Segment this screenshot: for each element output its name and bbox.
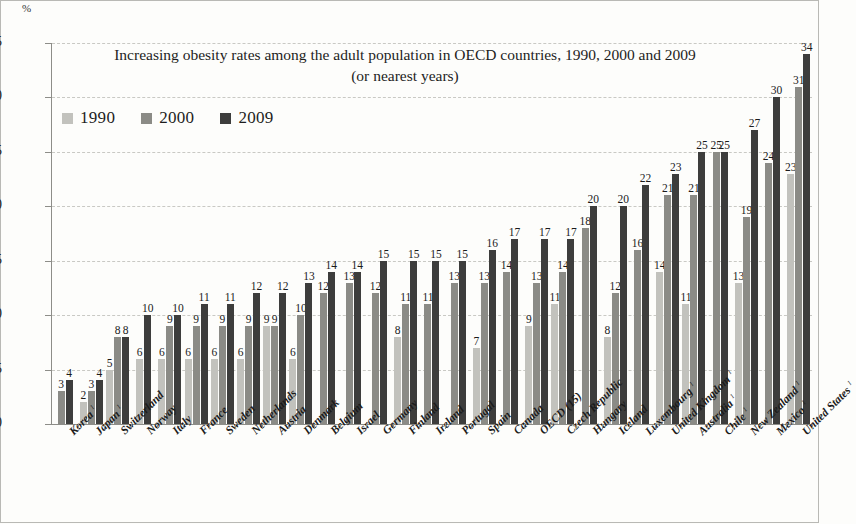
bar-value-label: 27 bbox=[749, 117, 761, 129]
bar-value-label: 9 bbox=[272, 313, 278, 325]
bar-2000: 19 bbox=[743, 217, 750, 424]
bar-2009: 4 bbox=[66, 380, 73, 424]
bar-value-label: 6 bbox=[137, 346, 143, 358]
x-tick-mark bbox=[78, 424, 79, 429]
bar-value-label: 8 bbox=[395, 324, 401, 336]
bar-value-label: 12 bbox=[251, 280, 263, 292]
bar-value-label: 17 bbox=[509, 226, 521, 238]
bar-value-label: 13 bbox=[303, 270, 315, 282]
bar-group: 6910 bbox=[157, 43, 183, 424]
y-tick-label: 5 bbox=[0, 361, 2, 377]
bar-group: 1820 bbox=[576, 43, 602, 424]
bar-2009: 22 bbox=[642, 185, 649, 424]
bar-value-label: 5 bbox=[107, 357, 113, 369]
bar-group: 233134 bbox=[786, 43, 812, 424]
x-tick-mark bbox=[157, 424, 158, 429]
x-tick-mark bbox=[235, 424, 236, 429]
bar-value-label: 9 bbox=[246, 313, 252, 325]
x-tick-mark bbox=[262, 424, 263, 429]
x-tick-mark bbox=[707, 424, 708, 429]
bar-2009: 11 bbox=[227, 304, 234, 424]
bar-value-label: 11 bbox=[199, 291, 210, 303]
x-tick-mark bbox=[655, 424, 656, 429]
bar-value-label: 10 bbox=[172, 302, 184, 314]
bar-group: 1115 bbox=[419, 43, 445, 424]
bar-value-label: 16 bbox=[487, 237, 499, 249]
bar-group: 91317 bbox=[524, 43, 550, 424]
bar-2009: 30 bbox=[773, 97, 780, 424]
bar-value-label: 9 bbox=[264, 313, 270, 325]
bar-value-label: 8 bbox=[604, 324, 610, 336]
x-tick-mark bbox=[681, 424, 682, 429]
bar-group: 81220 bbox=[602, 43, 628, 424]
bar-group: 111417 bbox=[550, 43, 576, 424]
bar-2009: 25 bbox=[698, 152, 705, 424]
bar-2009: 12 bbox=[253, 293, 260, 424]
bar-2009: 20 bbox=[620, 206, 627, 424]
y-tick-label: 0 bbox=[0, 415, 2, 431]
bar-group: 610 bbox=[131, 43, 157, 424]
bar-value-label: 20 bbox=[587, 193, 599, 205]
bar-value-label: 25 bbox=[718, 139, 730, 151]
bar-group: 2430 bbox=[759, 43, 785, 424]
bar-2009: 23 bbox=[672, 174, 679, 424]
x-tick-mark bbox=[366, 424, 367, 429]
bar-group: 1214 bbox=[314, 43, 340, 424]
x-tick-mark bbox=[288, 424, 289, 429]
x-tick-mark bbox=[550, 424, 551, 429]
bar-value-label: 6 bbox=[238, 346, 244, 358]
x-tick-mark bbox=[498, 424, 499, 429]
bar-1990: 14 bbox=[656, 272, 663, 424]
bar-group: 1215 bbox=[366, 43, 392, 424]
bar-group: 234 bbox=[78, 43, 104, 424]
bar-group: 1314 bbox=[340, 43, 366, 424]
y-tick-label: 15 bbox=[0, 252, 2, 268]
bar-value-label: 6 bbox=[159, 346, 165, 358]
bar-groups: 3423458861069106911691169129912610131214… bbox=[52, 43, 812, 424]
bar-value-label: 6 bbox=[290, 346, 296, 358]
bar-value-label: 2 bbox=[80, 389, 86, 401]
x-tick-mark bbox=[314, 424, 315, 429]
bar-2000: 31 bbox=[795, 87, 802, 424]
bar-group: 6912 bbox=[235, 43, 261, 424]
bar-value-label: 14 bbox=[352, 259, 364, 271]
bar-value-label: 6 bbox=[211, 346, 217, 358]
y-tick-label: 10 bbox=[0, 306, 2, 322]
bar-group: 9912 bbox=[262, 43, 288, 424]
bar-2009: 20 bbox=[590, 206, 597, 424]
bar-value-label: 4 bbox=[66, 367, 72, 379]
bar-2009: 17 bbox=[541, 239, 548, 424]
bar-value-label: 8 bbox=[123, 324, 129, 336]
x-tick-mark bbox=[760, 424, 761, 429]
bar-group: 6911 bbox=[209, 43, 235, 424]
y-tick-label: 20 bbox=[0, 197, 2, 213]
x-axis-labels: Korea 1Japan 1SwitzerlandNorwayItalyFran… bbox=[52, 428, 812, 524]
bar-value-label: 3 bbox=[88, 378, 94, 390]
x-tick-mark bbox=[104, 424, 105, 429]
y-tick-label: 25 bbox=[0, 143, 2, 159]
bar-value-label: 15 bbox=[456, 248, 468, 260]
bar-2009: 15 bbox=[432, 261, 439, 424]
bar-2009: 17 bbox=[511, 239, 518, 424]
bar-2009: 27 bbox=[751, 130, 758, 424]
bar-value-label: 7 bbox=[473, 335, 479, 347]
bar-value-label: 15 bbox=[378, 248, 390, 260]
bar-value-label: 23 bbox=[670, 161, 682, 173]
bar-value-label: 12 bbox=[277, 280, 289, 292]
bar-2000: 24 bbox=[765, 163, 772, 424]
bar-value-label: 9 bbox=[526, 313, 532, 325]
x-tick-mark bbox=[209, 424, 210, 429]
bar-value-label: 25 bbox=[696, 139, 708, 151]
bar-2000: 21 bbox=[664, 195, 671, 424]
x-tick-mark bbox=[524, 424, 525, 429]
bar-2009: 11 bbox=[201, 304, 208, 424]
bar-2000: 18 bbox=[582, 228, 589, 424]
bar-value-label: 17 bbox=[539, 226, 551, 238]
x-tick-mark bbox=[786, 424, 787, 429]
bar-group: 112125 bbox=[681, 43, 707, 424]
bar-2009: 34 bbox=[803, 54, 810, 424]
y-axis-unit-label: % bbox=[22, 2, 31, 14]
bar-2000: 3 bbox=[58, 391, 65, 424]
x-tick-mark bbox=[131, 424, 132, 429]
